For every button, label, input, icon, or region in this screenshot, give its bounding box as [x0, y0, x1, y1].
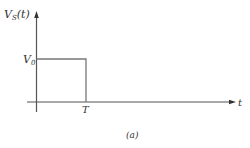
y-axis-arrow-icon [34, 11, 39, 18]
pulse-diagram: VS(t) V0 T t (a) [0, 0, 250, 148]
y-axis-label: VS(t) [4, 8, 30, 22]
x-axis-label: t [238, 97, 243, 108]
pulse-waveform [37, 59, 87, 102]
level-label: V0 [23, 53, 36, 67]
figure-caption: (a) [126, 130, 139, 140]
x-axis-arrow-icon [229, 100, 236, 104]
time-mark-label: T [82, 104, 90, 115]
